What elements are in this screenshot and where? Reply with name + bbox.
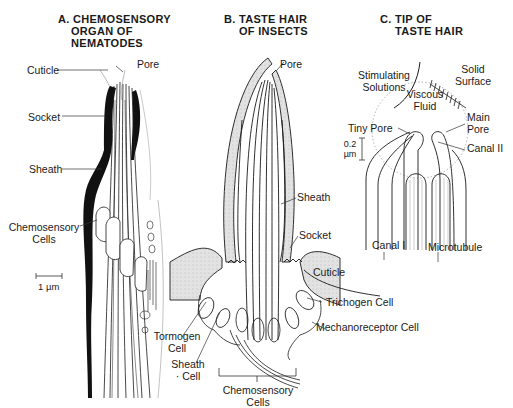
scale-bar-label-a: 1 µm (38, 281, 59, 293)
panel-b-title-line1: B. TASTE HAIR (224, 13, 308, 25)
label-socket-a: Socket (28, 111, 60, 123)
label-chemosensory-cells-b-line2: Cells (218, 396, 298, 408)
label-sheath-b: Sheath (297, 191, 330, 203)
label-mechanoreceptor-cell: Mechanoreceptor Cell (316, 321, 419, 333)
label-sheath-a: Sheath (29, 163, 62, 175)
label-stimulating-solutions-line1: Stimulating (354, 69, 414, 81)
panel-b-title: B. TASTE HAIR OF INSECTS (224, 13, 308, 37)
label-tiny-pore: Tiny Pore (348, 122, 393, 134)
label-viscous-fluid-line1: Viscous (405, 88, 445, 100)
diagram-artwork (0, 0, 513, 408)
label-solid-surface-line2: Surface (448, 75, 498, 87)
label-main-pore-line2: Pore (467, 123, 490, 135)
label-cuticle-b: Cuticle (313, 266, 345, 278)
panel-a-title-line1: A. CHEMOSENSORY (58, 13, 171, 25)
label-chemosensory-cells-b-line1: Chemosensory (218, 384, 298, 396)
label-chemosensory-cells-a: Chemosensory Cells (6, 221, 82, 245)
label-solid-surface-line1: Solid (448, 63, 498, 75)
scale-bar-label-c-line1: 0.2 (339, 139, 361, 149)
label-sheath-cell: Sheath · Cell (166, 358, 210, 382)
panel-a-title: A. CHEMOSENSORY ORGAN OF NEMATODES (58, 13, 171, 49)
label-viscous-fluid: Viscous Fluid (405, 88, 445, 112)
panel-a-title-line3: NEMATODES (58, 37, 171, 49)
label-chemosensory-cells-b: Chemosensory Cells (218, 384, 298, 408)
label-tormogen-cell-line1: Tormogen (149, 330, 205, 342)
label-viscous-fluid-line2: Fluid (405, 100, 445, 112)
label-canal-i: Canal I (372, 239, 405, 251)
panel-c-title: C. TIP OF TASTE HAIR (380, 13, 463, 37)
label-trichogen-cell: Trichogen Cell (326, 296, 393, 308)
scale-bar-label-c: 0.2 µm (339, 139, 361, 159)
label-canal-ii: Canal II (467, 142, 503, 154)
label-socket-b: Socket (299, 229, 331, 241)
panel-c-title-line1: C. TIP OF (380, 13, 463, 25)
label-pore-a: Pore (137, 58, 159, 70)
label-main-pore: Main Pore (467, 111, 490, 135)
label-chemosensory-cells-a-line2: Cells (6, 233, 82, 245)
panel-b-title-line2: OF INSECTS (224, 25, 308, 37)
label-main-pore-line1: Main (467, 111, 490, 123)
label-cuticle-a: Cuticle (27, 64, 59, 76)
panel-c-title-line2: TASTE HAIR (380, 25, 463, 37)
panel-a-title-line2: ORGAN OF (58, 25, 171, 37)
label-tormogen-cell: Tormogen Cell (149, 330, 205, 354)
label-sheath-cell-line2: · Cell (166, 370, 210, 382)
label-chemosensory-cells-a-line1: Chemosensory (6, 221, 82, 233)
label-tormogen-cell-line2: Cell (149, 342, 205, 354)
label-solid-surface: Solid Surface (448, 63, 498, 87)
label-sheath-cell-line1: Sheath (166, 358, 210, 370)
label-pore-b: Pore (280, 58, 302, 70)
label-microtubule: Microtubule (428, 241, 482, 253)
scale-bar-label-c-line2: µm (339, 149, 361, 159)
